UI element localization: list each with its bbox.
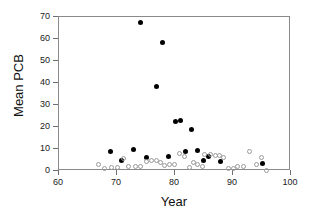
x-tick-label-60: 60: [45, 177, 71, 187]
data-point-open-circles-20: [200, 164, 205, 169]
y-tick-40: [53, 82, 58, 83]
x-tick-60: [58, 170, 59, 175]
scatter-plot-figure: 010203040506070 60708090100 Mean PCB Yea…: [0, 0, 314, 218]
y-tick-label-0: 0: [28, 165, 50, 175]
y-tick-label-10: 10: [28, 143, 50, 153]
y-tick-50: [53, 60, 58, 61]
plot-area: [58, 16, 290, 170]
data-point-filled-circles-3: [138, 20, 143, 25]
y-tick-label-50: 50: [28, 55, 50, 65]
y-tick-label-40: 40: [28, 77, 50, 87]
data-point-filled-circles-8: [173, 119, 178, 124]
y-axis-title: Mean PCB: [11, 38, 26, 134]
data-point-open-circles-33: [264, 168, 269, 173]
data-point-open-circles-14: [172, 162, 177, 167]
y-tick-60: [53, 38, 58, 39]
data-point-filled-circles-12: [195, 148, 200, 153]
data-point-open-circles-3: [115, 165, 120, 170]
data-point-filled-circles-0: [108, 149, 113, 154]
data-point-filled-circles-15: [218, 159, 223, 164]
x-tick-90: [232, 170, 233, 175]
data-point-open-circles-17: [187, 165, 192, 170]
y-tick-10: [53, 148, 58, 149]
y-tick-20: [53, 126, 58, 127]
y-tick-label-20: 20: [28, 121, 50, 131]
x-tick-label-100: 100: [277, 177, 303, 187]
data-point-filled-circles-7: [166, 154, 171, 159]
data-point-open-circles-6: [133, 164, 138, 169]
data-point-filled-circles-2: [131, 147, 136, 152]
x-tick-label-70: 70: [103, 177, 129, 187]
y-tick-label-30: 30: [28, 99, 50, 109]
data-point-open-circles-25: [221, 155, 226, 160]
x-tick-80: [174, 170, 175, 175]
data-point-open-circles-16: [182, 154, 187, 159]
x-tick-100: [290, 170, 291, 175]
y-tick-label-60: 60: [28, 33, 50, 43]
x-tick-label-90: 90: [219, 177, 245, 187]
data-point-filled-circles-11: [189, 127, 194, 132]
x-tick-70: [116, 170, 117, 175]
y-tick-label-70: 70: [28, 11, 50, 21]
x-tick-label-80: 80: [161, 177, 187, 187]
data-point-open-circles-2: [109, 165, 114, 170]
data-point-open-circles-32: [259, 155, 264, 160]
y-tick-70: [53, 16, 58, 17]
data-point-filled-circles-13: [201, 158, 206, 163]
x-axis-title: Year: [58, 194, 290, 209]
data-point-open-circles-1: [102, 166, 107, 171]
y-tick-30: [53, 104, 58, 105]
